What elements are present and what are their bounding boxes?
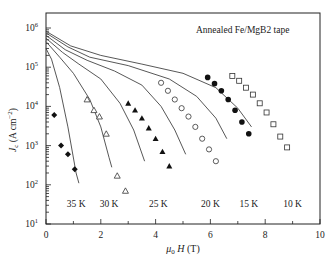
y-tick-label: 101 — [25, 217, 38, 229]
x-tick-label: 8 — [263, 230, 268, 240]
data-point — [271, 122, 276, 127]
data-point — [232, 107, 238, 113]
y-tick-label: 102 — [25, 178, 38, 190]
data-point — [219, 88, 225, 94]
data-point — [51, 112, 57, 118]
x-tick-label: 2 — [98, 230, 103, 240]
data-point — [186, 114, 191, 119]
x-tick-label: 4 — [153, 230, 158, 240]
data-point — [166, 163, 172, 168]
y-tick-label: 104 — [25, 99, 39, 111]
data-point — [200, 136, 205, 141]
data-point — [264, 110, 269, 115]
data-point — [96, 114, 102, 119]
transport-curves — [46, 31, 252, 183]
data-point — [205, 75, 211, 81]
transport-curve — [46, 38, 145, 161]
transport-curve — [46, 42, 112, 168]
data-point — [257, 101, 262, 106]
data-point — [146, 125, 152, 130]
transport-curve — [46, 33, 227, 139]
temperature-label: 10 K — [283, 199, 302, 209]
temperature-label: 20 K — [201, 199, 220, 209]
y-axis-title: Jc (A cm−2) — [6, 108, 20, 152]
data-point — [172, 97, 177, 102]
x-tick-label: 0 — [44, 230, 49, 240]
data-point — [153, 136, 159, 141]
data-point — [65, 151, 71, 157]
data-point — [122, 188, 128, 193]
data-point — [139, 115, 145, 120]
y-tick-labels: 101102103104105106 — [25, 21, 39, 229]
data-point — [230, 73, 235, 78]
data-point — [72, 166, 78, 172]
data-point — [114, 173, 120, 178]
data-markers — [51, 73, 289, 193]
data-point — [285, 145, 290, 150]
data-point — [132, 107, 138, 112]
plot-frame — [46, 13, 320, 224]
data-point — [244, 85, 249, 90]
data-point — [206, 147, 211, 152]
y-tick-label: 105 — [25, 60, 38, 72]
x-tick-label: 10 — [315, 230, 325, 240]
data-point — [159, 149, 165, 154]
data-point — [212, 81, 218, 87]
x-tick-label: 6 — [208, 230, 213, 240]
data-point — [250, 92, 255, 97]
temperature-label: 30 K — [100, 199, 119, 209]
data-point — [237, 78, 242, 83]
y-tick-label: 106 — [25, 21, 39, 33]
temperature-label: 25 K — [149, 199, 168, 209]
data-point — [91, 107, 97, 112]
data-point — [165, 88, 170, 93]
temperature-label: 15 K — [239, 199, 258, 209]
transport-curve — [46, 49, 79, 184]
temperature-labels: 35 K30 K25 K20 K15 K10 K — [67, 199, 302, 209]
temperature-label: 35 K — [67, 199, 86, 209]
x-axis-ticks — [46, 219, 320, 224]
jc-field-chart: 101102103104105106 0246810 35 K30 K25 K2… — [0, 0, 331, 263]
data-point — [193, 124, 198, 129]
y-tick-label: 103 — [25, 139, 38, 151]
data-point — [278, 134, 283, 139]
data-point — [246, 131, 252, 137]
data-point — [225, 97, 231, 103]
data-point — [58, 143, 64, 149]
data-point — [158, 80, 163, 85]
chart-annotation: Annealed Fe/MgB2 tape — [196, 25, 289, 35]
data-point — [103, 131, 109, 136]
data-point — [213, 159, 218, 164]
data-point — [125, 100, 131, 105]
x-tick-labels: 0246810 — [44, 230, 325, 240]
data-point — [239, 119, 245, 125]
x-axis-title: μ0 H (T) — [165, 243, 200, 256]
transport-curve — [46, 35, 186, 154]
data-point — [179, 106, 184, 111]
